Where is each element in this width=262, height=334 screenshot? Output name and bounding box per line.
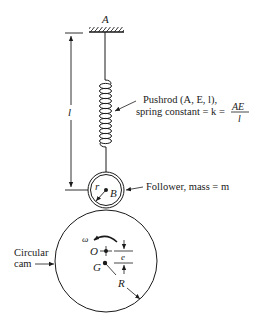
fraction-denominator: l: [238, 113, 241, 124]
circular-cam: Circular cam ω O G e R: [14, 210, 157, 312]
rotation-label: ω: [82, 234, 88, 244]
pushrod-label-line1: Pushrod (A, E, l),: [143, 94, 217, 106]
follower-radius-label: r: [95, 180, 100, 192]
cam-radius-label: R: [117, 277, 125, 289]
mass-center-label: G: [93, 261, 101, 273]
cam-center-label: O: [90, 245, 98, 257]
follower-label: Follower, mass = m: [146, 181, 229, 192]
cam-follower-diagram: A l Pushrod (A, E, l), spring constant =…: [0, 0, 262, 334]
eccentricity-label: e: [121, 252, 125, 262]
cam-label-line2: cam: [14, 258, 32, 269]
follower-center-label: B: [110, 187, 117, 199]
length-label: l: [68, 106, 71, 118]
fraction-numerator: AE: [231, 101, 244, 112]
ground-label: A: [101, 13, 109, 25]
ground-support: A: [89, 13, 124, 32]
pushrod-spring: [100, 32, 112, 190]
cam-label-line1: Circular: [14, 247, 49, 258]
rotation-arrow-icon: [94, 236, 117, 242]
pushrod-label-line2: spring constant = k =: [136, 106, 225, 117]
follower: r B Follower, mass = m: [88, 172, 229, 208]
length-dimension: l: [65, 33, 90, 190]
pushrod-label: Pushrod (A, E, l), spring constant = k =…: [115, 94, 249, 124]
